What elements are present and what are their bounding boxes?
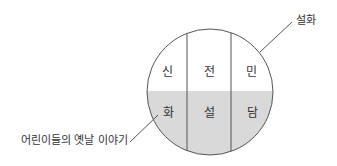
segmented-circle bbox=[140, 20, 280, 165]
shaded-lower-half bbox=[140, 91, 280, 161]
cell-bottom-2: 설 bbox=[204, 106, 215, 120]
leader-line-outer bbox=[260, 22, 292, 52]
leader-line-lower bbox=[130, 115, 158, 142]
cell-top-3: 민 bbox=[246, 65, 257, 79]
label-outer: 설화 bbox=[296, 14, 316, 27]
label-lower: 어린이들의 옛날 이야기 bbox=[21, 134, 128, 147]
callout-outer: 설화 bbox=[260, 14, 316, 52]
diagram-canvas: 신 전 민 화 설 담 설화 어린이들의 옛날 이야기 bbox=[0, 0, 337, 166]
cell-top-2: 전 bbox=[204, 65, 215, 79]
cell-bottom-3: 담 bbox=[247, 106, 258, 120]
callout-lower: 어린이들의 옛날 이야기 bbox=[21, 115, 158, 147]
cell-bottom-1: 화 bbox=[163, 106, 174, 120]
cell-top-1: 신 bbox=[162, 65, 173, 79]
